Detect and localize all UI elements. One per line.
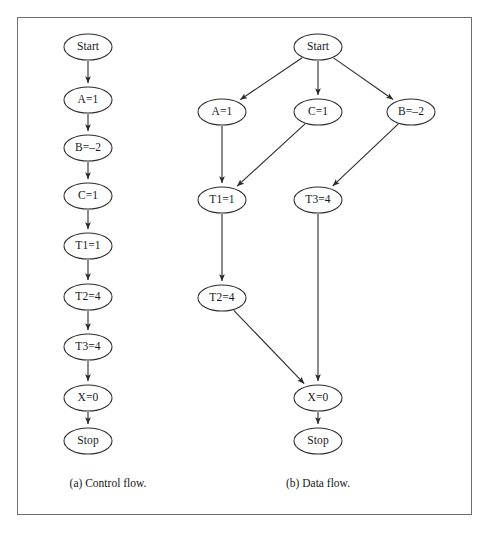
edge-b-start-to-b-b2 — [334, 58, 394, 100]
figure-diagram — [0, 0, 487, 533]
node-a-t24[interactable] — [64, 284, 112, 310]
node-a-t34[interactable] — [64, 334, 112, 360]
edge-b-start-to-b-a1 — [240, 58, 302, 100]
edge-b-t24-to-b-x0 — [234, 310, 304, 383]
caption-control-flow: (a) Control flow. — [70, 477, 147, 489]
nodes-layer — [64, 34, 435, 454]
node-a-b2[interactable] — [64, 135, 112, 161]
node-a-c1[interactable] — [64, 183, 112, 209]
node-b-t34[interactable] — [294, 187, 342, 213]
edge-b-c1-to-b-t11 — [237, 124, 305, 186]
node-a-t11[interactable] — [64, 233, 112, 259]
node-b-start[interactable] — [294, 34, 342, 60]
node-b-x0[interactable] — [294, 385, 342, 411]
node-a-start[interactable] — [64, 34, 112, 60]
caption-data-flow: (b) Data flow. — [286, 477, 350, 489]
node-b-c1[interactable] — [294, 99, 342, 125]
node-b-a1[interactable] — [198, 99, 246, 125]
node-a-a1[interactable] — [64, 87, 112, 113]
node-a-stop[interactable] — [64, 428, 112, 454]
edge-b-b2-to-b-t34 — [333, 124, 399, 186]
node-a-x0[interactable] — [64, 385, 112, 411]
node-b-t11[interactable] — [198, 187, 246, 213]
node-b-b2[interactable] — [387, 99, 435, 125]
node-b-t24[interactable] — [198, 285, 246, 311]
node-b-stop[interactable] — [294, 428, 342, 454]
